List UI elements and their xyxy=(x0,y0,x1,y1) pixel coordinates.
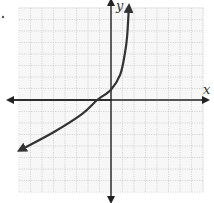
y-axis-label: y xyxy=(115,0,124,13)
graph: x y xyxy=(0,0,214,203)
grid-area xyxy=(20,7,204,191)
bullet-dot xyxy=(2,16,4,18)
x-axis-label: x xyxy=(203,82,211,97)
